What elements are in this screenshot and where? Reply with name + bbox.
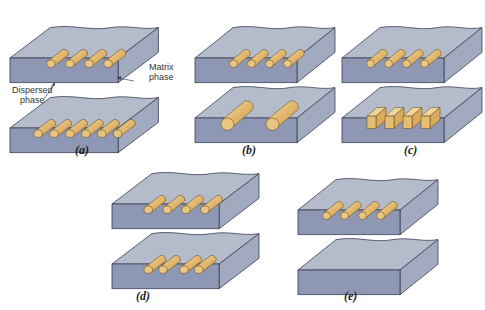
block-b-bottom [195, 87, 335, 143]
block-e-top [298, 179, 438, 235]
composite-diagram: Dispersed phase Matrix phase (a) (b) (c) [0, 0, 485, 310]
dispersed-phase-label-2: phase [20, 95, 45, 105]
caption-e: (e) [344, 289, 357, 303]
caption-b: (b) [242, 143, 256, 157]
block-c-bottom [342, 87, 482, 143]
panel-a: Dispersed phase Matrix phase (a) [10, 27, 174, 157]
panel-b: (b) [195, 27, 335, 157]
caption-d: (d) [136, 289, 150, 303]
block-a-top [10, 27, 158, 83]
block-e-bottom [298, 239, 438, 295]
caption-c: (c) [404, 143, 417, 157]
block-d-top [112, 173, 259, 229]
dispersed-phase-label: Dispersed [12, 85, 53, 95]
panel-c: (c) [342, 27, 482, 157]
panel-e: (e) [298, 179, 438, 303]
caption-a: (a) [75, 143, 89, 157]
matrix-phase-label: Matrix [149, 62, 174, 72]
block-c-top [342, 27, 482, 83]
block-b-top [195, 27, 335, 83]
block-d-bottom [112, 233, 259, 289]
panel-d: (d) [112, 173, 259, 303]
matrix-phase-label-2: phase [149, 72, 174, 82]
